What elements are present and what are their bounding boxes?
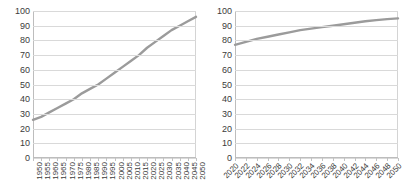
gridline: [33, 11, 196, 12]
y-axis-tick-label: 10: [20, 139, 30, 148]
y-axis-tick-label: 0: [25, 154, 30, 163]
x-axis-tick-mark: [123, 158, 124, 161]
x-axis-tick-mark: [66, 158, 67, 161]
y-axis-tick-label: 90: [222, 21, 232, 30]
gridline: [235, 85, 398, 86]
x-axis-tick-mark: [235, 158, 236, 161]
y-axis-tick-label: 100: [217, 7, 232, 16]
x-axis-tick-mark: [33, 158, 34, 161]
gridline: [33, 55, 196, 56]
x-axis-tick-mark: [41, 158, 42, 161]
y-axis-tick-label: 20: [20, 124, 30, 133]
x-axis-tick-mark: [49, 158, 50, 161]
y-axis-tick-label: 80: [222, 36, 232, 45]
gridline: [235, 99, 398, 100]
x-axis-tick-mark: [188, 158, 189, 161]
y-axis-tick-label: 10: [222, 139, 232, 148]
x-axis-tick-mark: [246, 158, 247, 161]
gridline: [235, 40, 398, 41]
x-axis-tick-mark: [311, 158, 312, 161]
chart-page: 0102030405060708090100195019551960196519…: [0, 0, 410, 194]
x-axis-tick-mark: [82, 158, 83, 161]
x-axis-tick-mark: [74, 158, 75, 161]
gridline: [33, 114, 196, 115]
plot-wrap-right: 0102030405060708090100202020222024202620…: [235, 11, 398, 158]
y-axis-tick-label: 70: [20, 51, 30, 60]
y-axis-tick-label: 40: [20, 95, 30, 104]
x-axis-tick-mark: [387, 158, 388, 161]
gridline: [33, 40, 196, 41]
gridline: [33, 99, 196, 100]
x-axis-tick-mark: [300, 158, 301, 161]
line-chart-left: 0102030405060708090100195019551960196519…: [0, 0, 205, 194]
x-axis-tick-mark: [322, 158, 323, 161]
x-axis-tick-mark: [172, 158, 173, 161]
line-chart-right: 0102030405060708090100202020222024202620…: [205, 0, 410, 194]
gridline: [235, 114, 398, 115]
gridline: [33, 129, 196, 130]
x-axis-tick-mark: [155, 158, 156, 161]
gridline: [235, 129, 398, 130]
x-axis-tick-mark: [344, 158, 345, 161]
x-axis-tick-mark: [180, 158, 181, 161]
x-axis-tick-mark: [355, 158, 356, 161]
x-axis-tick-mark: [115, 158, 116, 161]
y-axis-tick-label: 60: [222, 65, 232, 74]
gridline: [235, 26, 398, 27]
y-axis-tick-label: 50: [20, 80, 30, 89]
x-axis-tick-mark: [106, 158, 107, 161]
x-axis-tick-mark: [57, 158, 58, 161]
x-axis-tick-mark: [278, 158, 279, 161]
plot-wrap-left: 0102030405060708090100195019551960196519…: [33, 11, 196, 158]
y-axis-tick-label: 90: [20, 21, 30, 30]
gridline: [33, 143, 196, 144]
gridline: [235, 55, 398, 56]
x-axis-tick-mark: [268, 158, 269, 161]
x-axis-tick-mark: [257, 158, 258, 161]
x-axis-tick-mark: [163, 158, 164, 161]
gridline: [235, 158, 398, 159]
y-axis-tick-label: 70: [222, 51, 232, 60]
y-axis-tick-label: 100: [15, 7, 30, 16]
gridline: [235, 143, 398, 144]
y-axis-tick-label: 50: [222, 80, 232, 89]
x-axis-tick-mark: [398, 158, 399, 161]
gridline: [235, 11, 398, 12]
gridline: [33, 85, 196, 86]
gridline: [33, 26, 196, 27]
x-axis-tick-mark: [147, 158, 148, 161]
y-axis-tick-label: 30: [20, 109, 30, 118]
x-axis-tick-mark: [365, 158, 366, 161]
x-axis-tick-mark: [333, 158, 334, 161]
y-axis-tick-label: 60: [20, 65, 30, 74]
y-axis-tick-label: 80: [20, 36, 30, 45]
y-axis-tick-label: 40: [222, 95, 232, 104]
y-axis-tick-label: 20: [222, 124, 232, 133]
y-axis-tick-label: 0: [227, 154, 232, 163]
x-axis-tick-mark: [376, 158, 377, 161]
x-axis-tick-mark: [98, 158, 99, 161]
x-axis-tick-mark: [131, 158, 132, 161]
x-axis-tick-mark: [90, 158, 91, 161]
gridline: [235, 70, 398, 71]
y-axis-tick-label: 30: [222, 109, 232, 118]
x-axis-tick-mark: [196, 158, 197, 161]
x-axis-tick-mark: [289, 158, 290, 161]
gridline: [33, 70, 196, 71]
x-axis-tick-mark: [139, 158, 140, 161]
